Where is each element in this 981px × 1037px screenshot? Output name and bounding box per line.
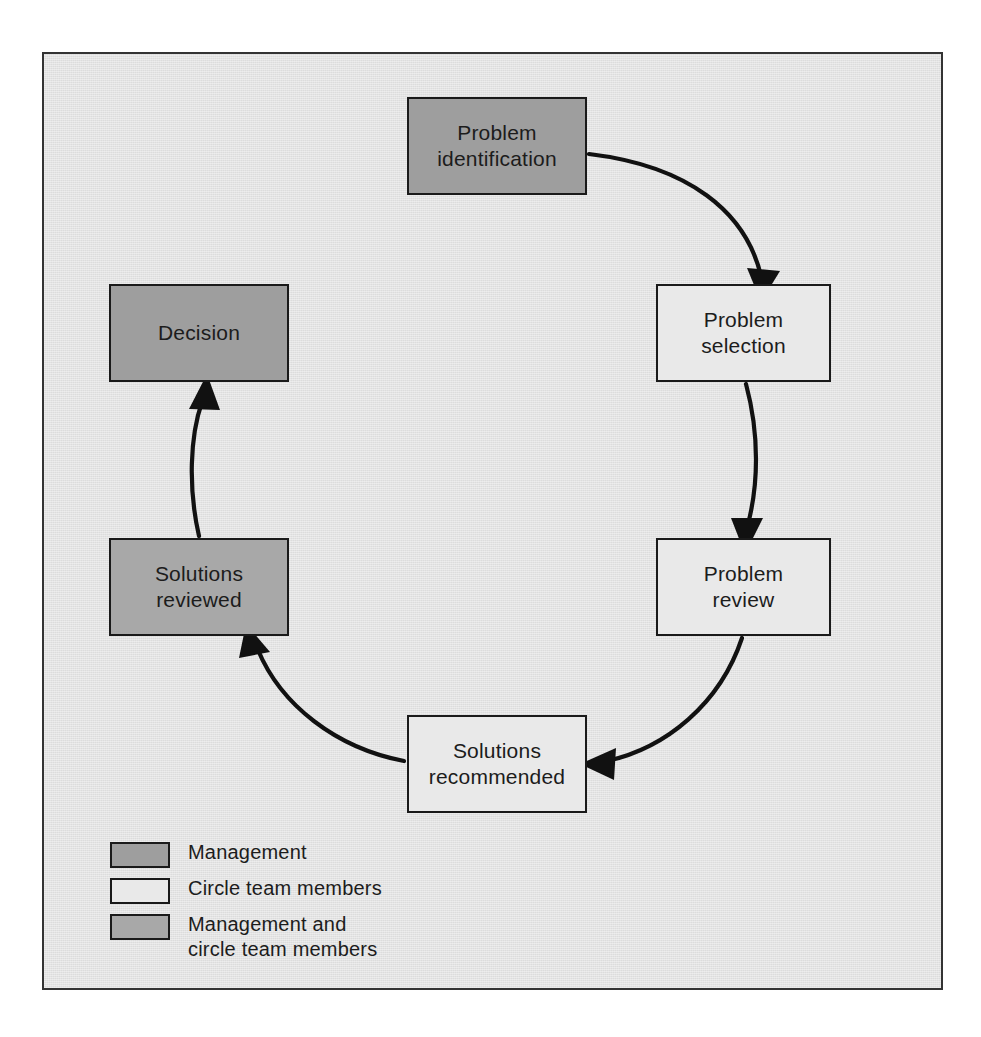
legend: Management Circle team members Managemen… (110, 840, 382, 970)
legend-swatch-management-and-circle (110, 914, 170, 940)
legend-swatch-circle-team-members (110, 878, 170, 904)
node-label: Problem selection (701, 307, 786, 358)
node-label: Solutions reviewed (155, 561, 243, 612)
legend-label-management-and-circle: Management and circle team members (188, 912, 377, 962)
node-solutions-reviewed[interactable]: Solutions reviewed (109, 538, 289, 636)
legend-item-management-and-circle: Management and circle team members (110, 912, 382, 962)
legend-label-circle-team-members: Circle team members (188, 876, 382, 901)
node-solutions-recommended[interactable]: Solutions recommended (407, 715, 587, 813)
figure-root: Problem identification Problem selection… (0, 0, 981, 1037)
node-label: Decision (158, 320, 240, 346)
diagram-frame: Problem identification Problem selection… (42, 52, 943, 990)
edge-selection-to-review (731, 384, 763, 554)
legend-label-management: Management (188, 840, 307, 865)
legend-swatch-management (110, 842, 170, 868)
node-label: Problem review (704, 561, 784, 612)
legend-item-circle-team-members: Circle team members (110, 876, 382, 904)
node-problem-selection[interactable]: Problem selection (656, 284, 831, 382)
legend-item-management: Management (110, 840, 382, 868)
node-problem-identification[interactable]: Problem identification (407, 97, 587, 195)
edge-reviewed-to-decision (189, 374, 220, 536)
edge-review-to-recommended (580, 638, 742, 780)
node-label: Solutions recommended (429, 738, 565, 789)
node-problem-review[interactable]: Problem review (656, 538, 831, 636)
edge-recommended-to-reviewed (239, 624, 404, 761)
node-label: Problem identification (437, 120, 557, 171)
node-decision[interactable]: Decision (109, 284, 289, 382)
edge-identification-to-selection (589, 154, 780, 302)
